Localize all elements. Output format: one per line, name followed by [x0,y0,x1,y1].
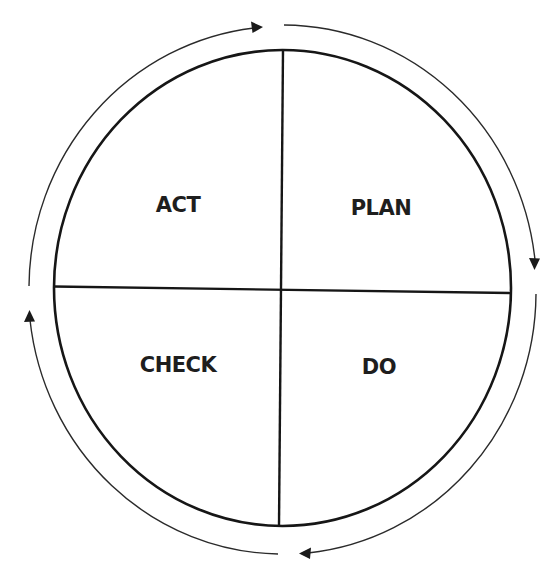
arrow-right-icon [251,22,263,34]
quadrant-label-do: DO [362,355,396,379]
arrow-left-icon [299,548,311,560]
arrow-down-icon [529,258,540,270]
pdca-cycle-diagram: ACT PLAN DO CHECK [0,0,550,580]
quadrant-label-check: CHECK [140,353,218,377]
arrow-up-icon [24,310,35,322]
quadrant-label-plan: PLAN [351,196,412,220]
quadrant-label-act: ACT [156,193,202,217]
